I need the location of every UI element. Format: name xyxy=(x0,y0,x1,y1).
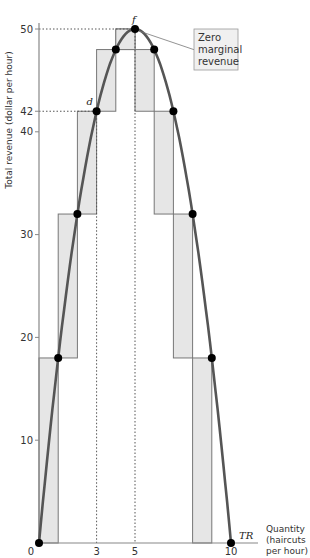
y-tick-label: 50 xyxy=(20,24,33,35)
tr-point xyxy=(208,354,216,362)
tr-point xyxy=(54,354,62,362)
x-axis-title-line: (haircuts xyxy=(266,535,306,545)
tr-point xyxy=(131,25,139,33)
curve-label-tr: TR xyxy=(239,530,254,541)
marginal-revenue-bar xyxy=(154,111,173,214)
tr-point xyxy=(150,46,158,54)
callout-leader-line xyxy=(139,31,195,50)
marginal-revenue-bar xyxy=(173,214,192,358)
callout-text-line: revenue xyxy=(198,56,239,67)
point-label-f: f xyxy=(131,14,138,25)
tr-point xyxy=(169,107,177,115)
tr-point xyxy=(35,539,43,547)
x-tick-label: 3 xyxy=(93,546,99,557)
callout-text-line: Zero xyxy=(198,32,221,43)
tr-point xyxy=(93,107,101,115)
tr-chart: 102030404250 03510 dfTR Zeromarginalreve… xyxy=(0,0,310,558)
x-axis-title: Quantity(haircutsper hour) xyxy=(266,524,308,556)
x-axis-title-line: per hour) xyxy=(266,546,308,556)
x-tick-label: 5 xyxy=(132,546,138,557)
tr-point xyxy=(112,46,120,54)
tr-point xyxy=(227,539,235,547)
y-tick-label: 40 xyxy=(20,126,33,137)
x-tick-label: 0 xyxy=(28,546,34,557)
y-ticks: 102030404250 xyxy=(20,24,39,446)
x-tick-label: 10 xyxy=(225,546,238,557)
marginal-revenue-bars xyxy=(39,29,212,543)
marginal-revenue-bar xyxy=(135,50,154,112)
point-label-d: d xyxy=(87,96,93,107)
y-tick-label: 20 xyxy=(20,332,33,343)
y-axis-title: Total revenue (dollar per hour) xyxy=(4,51,14,189)
tr-point xyxy=(189,210,197,218)
y-tick-label: 30 xyxy=(20,229,33,240)
x-ticks: 03510 xyxy=(28,546,238,557)
x-axis-title-line: Quantity xyxy=(266,524,306,534)
callout-text-line: marginal xyxy=(198,44,242,55)
y-tick-label: 42 xyxy=(20,106,33,117)
y-tick-label: 10 xyxy=(20,435,33,446)
marginal-revenue-bar xyxy=(193,358,212,543)
tr-point xyxy=(73,210,81,218)
